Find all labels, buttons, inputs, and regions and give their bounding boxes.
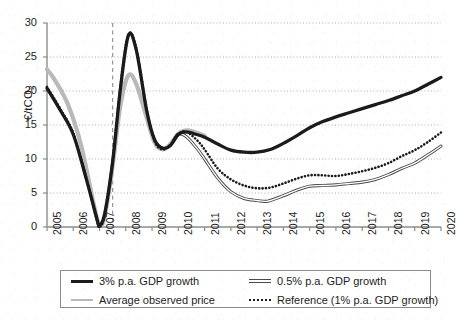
- y-tick-label: 15: [11, 118, 37, 130]
- x-tick-label: 2018: [392, 212, 404, 235]
- legend-swatch-gray-line-icon: [71, 295, 93, 305]
- x-tick-label: 2016: [340, 212, 352, 235]
- y-tick-label: 25: [11, 50, 37, 62]
- x-tick-label: 2020: [445, 212, 457, 235]
- x-tick-label: 2007: [104, 212, 116, 235]
- x-tick-label: 2014: [287, 212, 299, 235]
- legend-item-label: 3% p.a. GDP growth: [99, 275, 199, 287]
- legend-item[interactable]: 3% p.a. GDP growth: [61, 275, 239, 287]
- x-tick-label: 2010: [182, 212, 194, 235]
- series-line-0-5-p-a-gdp-growth-outer: [173, 134, 441, 202]
- x-tick-label: 2012: [235, 212, 247, 235]
- x-tick-label: 2015: [314, 212, 326, 235]
- y-tick-label: 0: [11, 220, 37, 232]
- x-tick-label: 2011: [209, 212, 221, 235]
- legend-swatch-double-line-icon: [249, 276, 271, 286]
- legend-item[interactable]: 0.5% p.a. GDP growth: [239, 275, 432, 287]
- x-tick-label: 2005: [51, 212, 63, 235]
- y-tick-label: 30: [11, 16, 37, 28]
- y-tick-label: 20: [11, 84, 37, 96]
- y-tick-label: 10: [11, 152, 37, 164]
- chart-legend: 3% p.a. GDP growth0.5% p.a. GDP growthAv…: [60, 270, 431, 308]
- legend-item[interactable]: Reference (1% p.a. GDP growth): [239, 294, 432, 306]
- legend-item-label: Reference (1% p.a. GDP growth): [277, 294, 438, 306]
- x-tick-label: 2006: [77, 212, 89, 235]
- x-tick-label: 2009: [156, 212, 168, 235]
- legend-item[interactable]: Average observed price: [61, 294, 239, 306]
- x-tick-label: 2013: [261, 212, 273, 235]
- legend-swatch-thick-black-line-icon: [71, 276, 93, 286]
- legend-item-label: 0.5% p.a. GDP growth: [277, 275, 386, 287]
- legend-swatch-dotted-line-icon: [249, 295, 271, 305]
- series-line-average-observed-price: [47, 69, 205, 225]
- x-tick-label: 2017: [366, 212, 378, 235]
- x-tick-label: 2008: [130, 212, 142, 235]
- legend-item-label: Average observed price: [99, 294, 215, 306]
- y-tick-label: 5: [11, 186, 37, 198]
- x-tick-label: 2019: [419, 212, 431, 235]
